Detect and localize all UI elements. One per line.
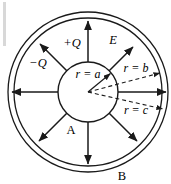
label-region-a: A xyxy=(66,123,75,137)
label-field-E: E xyxy=(108,33,117,47)
label-region-b: B xyxy=(118,169,126,183)
label-inner-charge: +Q xyxy=(63,36,80,50)
diagram-canvas: +Q −Q E r = a r = b r = c A B xyxy=(0,0,171,184)
field-arrow-down-right xyxy=(109,113,137,141)
label-radius-a: r = a xyxy=(76,67,101,81)
label-shell-charge: −Q xyxy=(29,56,46,70)
field-arrow-down-left xyxy=(39,113,67,141)
label-radius-c: r = c xyxy=(124,103,149,117)
physics-diagram-figure: +Q −Q E r = a r = b r = c A B xyxy=(0,0,171,184)
label-radius-b: r = b xyxy=(124,61,149,75)
